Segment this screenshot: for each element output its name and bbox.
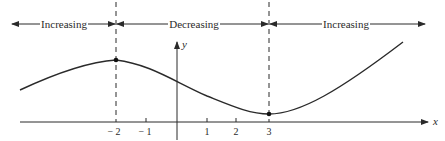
tick-label-neg1: − 1 xyxy=(138,126,151,137)
interval-bar: Increasing Decreasing Increasing xyxy=(12,18,425,30)
local-min-point xyxy=(267,112,272,117)
function-chart: Increasing Decreasing Increasing x y − 2… xyxy=(0,0,445,141)
tick-label-1: 1 xyxy=(205,126,210,137)
interval-label-increasing-left: Increasing xyxy=(41,18,87,30)
interval-label-decreasing: Decreasing xyxy=(169,18,219,30)
y-axis-label: y xyxy=(181,38,187,50)
tick-label-2: 2 xyxy=(234,126,239,137)
x-axis-label: x xyxy=(432,115,438,127)
tick-label-3: 3 xyxy=(267,126,272,137)
interval-label-increasing-right: Increasing xyxy=(323,18,369,30)
x-ticks: − 2 − 1 1 2 3 xyxy=(107,118,271,137)
local-max-point xyxy=(114,58,119,63)
tick-label-neg2: − 2 xyxy=(107,126,120,137)
function-curve xyxy=(20,42,403,114)
